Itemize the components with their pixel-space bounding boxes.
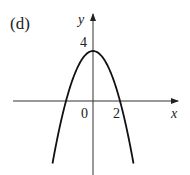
y-tick-4: 4 <box>80 35 87 50</box>
y-axis-label: y <box>76 12 85 27</box>
x-axis-label: x <box>170 106 178 121</box>
parabola-chart: (d) y 4 0 2 x <box>0 0 190 175</box>
x-tick-2: 2 <box>113 106 120 121</box>
origin-label: 0 <box>81 106 88 121</box>
panel-label: (d) <box>10 14 30 33</box>
